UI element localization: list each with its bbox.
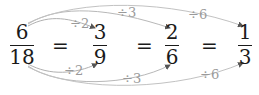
numerator: 2 xyxy=(157,22,187,44)
label-bottom-div3: ÷3 xyxy=(122,72,141,85)
fraction-1-3: 1 3 xyxy=(230,22,259,69)
label-top-div6: ÷6 xyxy=(188,8,207,21)
label-top-div3: ÷3 xyxy=(117,6,136,19)
numerator: 1 xyxy=(230,22,259,44)
numerator: 3 xyxy=(85,22,115,44)
label-bottom-div6: ÷6 xyxy=(200,68,219,81)
numerator: 6 xyxy=(7,22,37,44)
denominator: 9 xyxy=(85,47,115,69)
fraction-2-6: 2 6 xyxy=(157,22,187,69)
fraction-6-18: 6 18 xyxy=(7,22,37,69)
fraction-3-9: 3 9 xyxy=(85,22,115,69)
denominator: 18 xyxy=(7,47,37,69)
equals-sign: = xyxy=(52,36,69,56)
equals-sign: = xyxy=(136,36,153,56)
denominator: 3 xyxy=(230,47,259,69)
denominator: 6 xyxy=(157,47,187,69)
label-bottom-div2: ÷2 xyxy=(64,64,83,77)
equals-sign: = xyxy=(201,36,218,56)
